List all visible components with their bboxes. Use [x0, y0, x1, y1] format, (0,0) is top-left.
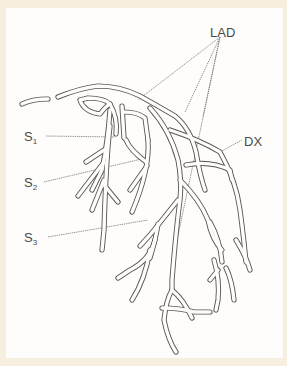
label-s1: S1 — [24, 130, 37, 148]
coronary-artery-diagram — [0, 0, 287, 366]
vessel-tree — [22, 86, 250, 352]
label-s3: S3 — [24, 231, 37, 249]
label-lad: LAD — [210, 26, 235, 39]
leader-lines — [44, 37, 242, 245]
label-s2: S2 — [24, 176, 37, 194]
label-dx: DX — [244, 135, 262, 148]
